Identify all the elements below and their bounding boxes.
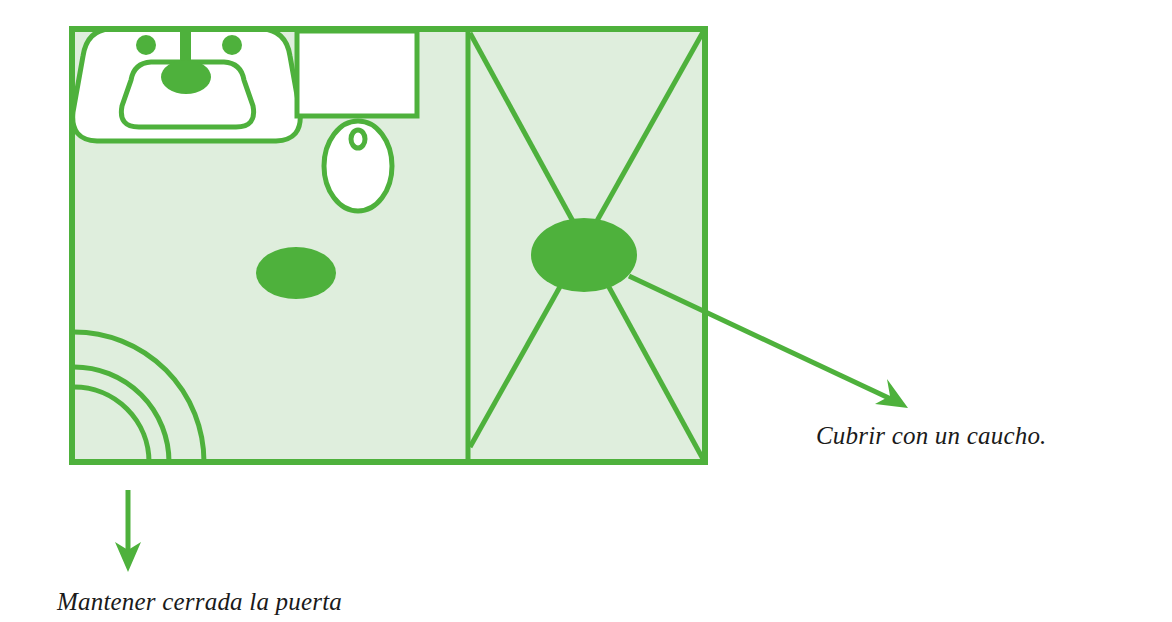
shower-drain [531,218,637,292]
faucet-base-icon [161,60,211,94]
caption-drain: Cubrir con un caucho. [816,422,1047,450]
figure-canvas: Mantener cerrada la puerta Cubrir con un… [0,0,1172,622]
faucet-knob-left-icon [136,35,156,55]
floor-drain-ellipse [256,247,336,299]
shower-drain-ellipse [531,218,637,292]
sink [73,29,301,141]
toilet-flush-hole-icon [351,130,365,148]
caption-door: Mantener cerrada la puerta [57,588,342,616]
toilet-tank [297,31,417,116]
floor-drain [256,247,336,299]
door-annotation-arrow [115,490,141,572]
bathroom-floorplan-svg [0,0,1172,622]
faucet-knob-right-icon [222,35,242,55]
